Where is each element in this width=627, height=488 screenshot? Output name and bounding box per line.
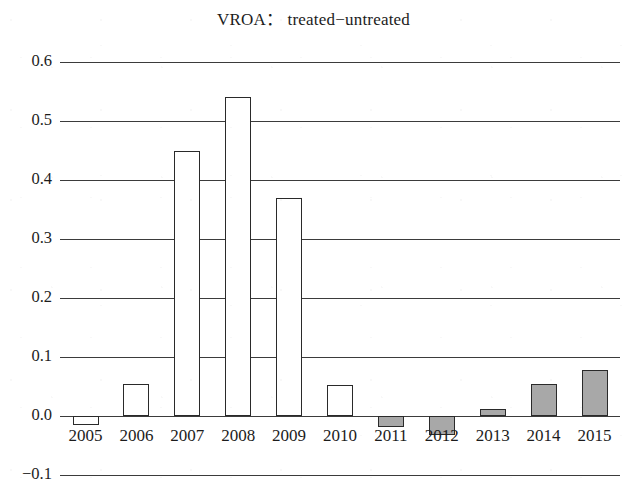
x-axis-tick-label: 2010	[314, 426, 366, 446]
gridline	[60, 475, 620, 476]
x-axis-tick-label: 2005	[60, 426, 112, 446]
x-axis-tick-label: 2007	[161, 426, 213, 446]
x-axis-tick-label: 2006	[110, 426, 162, 446]
y-axis-tick-label: 0.3	[6, 228, 52, 248]
bar-2015	[582, 370, 608, 416]
y-axis-tick-label: 0.0	[6, 405, 52, 425]
bar-2013	[480, 409, 506, 416]
gridline	[60, 121, 620, 122]
bar-2014	[531, 384, 557, 417]
chart-title: VROA： treated−untreated	[0, 5, 627, 30]
gridline	[60, 239, 620, 240]
x-axis-tick-label: 2012	[416, 426, 468, 446]
y-axis-tick-label: 0.4	[6, 169, 52, 189]
gridline	[60, 357, 620, 358]
gridline	[60, 180, 620, 181]
y-axis-tick-label: 0.2	[6, 287, 52, 307]
chart-container: VROA： treated−untreated 0.60.50.40.30.20…	[0, 0, 627, 488]
bar-2008	[225, 97, 251, 416]
y-axis-tick-label: 0.5	[6, 110, 52, 130]
bar-2011	[378, 416, 404, 427]
bar-2010	[327, 385, 353, 416]
x-axis-tick-label: 2011	[365, 426, 417, 446]
x-axis-tick-label: 2009	[263, 426, 315, 446]
x-axis-tick-label: 2014	[518, 426, 570, 446]
plot-area	[60, 62, 620, 475]
y-axis-tick-label: 0.1	[6, 346, 52, 366]
x-axis-tick-label: 2013	[467, 426, 519, 446]
gridline	[60, 62, 620, 63]
bar-2009	[276, 198, 302, 416]
y-axis-tick-labels: 0.60.50.40.30.20.10.0−0.1	[0, 0, 52, 488]
bar-2005	[73, 416, 99, 425]
x-axis-tick-label: 2015	[569, 426, 621, 446]
y-axis-tick-label: −0.1	[6, 464, 52, 484]
bar-2006	[123, 384, 149, 417]
gridline	[60, 416, 620, 417]
x-axis-tick-labels: 2005200620072008200920102011201220132014…	[0, 426, 627, 456]
bar-2007	[174, 151, 200, 417]
gridline	[60, 298, 620, 299]
y-axis-tick-label: 0.6	[6, 51, 52, 71]
x-axis-tick-label: 2008	[212, 426, 264, 446]
